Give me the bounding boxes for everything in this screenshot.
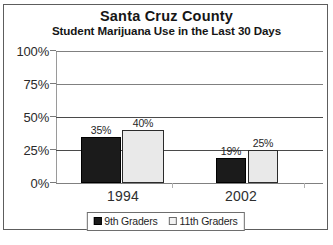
x-tick-stub-1994 bbox=[172, 183, 173, 188]
y-tick-label-100: 100% bbox=[17, 44, 49, 59]
bar-2002-11th-graders[interactable]: 25% bbox=[248, 150, 278, 183]
bar-2002-9th-graders[interactable]: 19% bbox=[216, 158, 246, 183]
chart-subtitle: Student Marijuana Use in the Last 30 Day… bbox=[4, 24, 329, 38]
bar-label-2002-11th-graders: 25% bbox=[253, 137, 273, 149]
y-tick-label-50: 50% bbox=[24, 110, 49, 125]
x-tick-stub-2002 bbox=[304, 183, 305, 188]
bar-label-2002-9th-graders: 19% bbox=[221, 145, 241, 157]
y-tick-label-0: 0% bbox=[31, 176, 49, 191]
bar-1994-9th-graders[interactable]: 35% bbox=[81, 137, 121, 183]
gridline-75 bbox=[56, 84, 323, 85]
legend-entry-11th-graders[interactable]: 11th Graders bbox=[169, 215, 238, 227]
chart-frame: Santa Cruz County Student Marijuana Use … bbox=[3, 4, 328, 230]
legend-entry-9th-graders[interactable]: 9th Graders bbox=[93, 215, 157, 227]
title-block: Santa Cruz County Student Marijuana Use … bbox=[4, 8, 329, 38]
legend-label-11th-graders: 11th Graders bbox=[180, 215, 238, 227]
gridline-50 bbox=[56, 117, 323, 118]
chart-legend: 9th Graders 11th Graders bbox=[86, 212, 244, 231]
y-tick-stub-100 bbox=[50, 50, 56, 51]
dark-square-swatch-icon bbox=[93, 217, 101, 225]
y-tick-label-75: 75% bbox=[24, 77, 49, 92]
bar-label-1994-11th-graders: 40% bbox=[133, 117, 153, 129]
bar-label-1994-9th-graders: 35% bbox=[91, 124, 111, 136]
bar-1994-11th-graders[interactable]: 40% bbox=[122, 130, 164, 183]
gridline-100 bbox=[56, 51, 323, 52]
y-tick-label-25: 25% bbox=[24, 143, 49, 158]
gridline-0 bbox=[56, 183, 323, 184]
legend-label-9th-graders: 9th Graders bbox=[104, 215, 157, 227]
plot-area: 100% 75% 50% 25% 0% 35% 40% 19% 25% 1994… bbox=[56, 51, 323, 183]
y-tick-stub-25 bbox=[50, 149, 56, 150]
x-tick-label-2002: 2002 bbox=[225, 188, 257, 204]
y-tick-stub-0 bbox=[50, 182, 56, 183]
light-square-swatch-icon bbox=[169, 217, 177, 225]
chart-title: Santa Cruz County bbox=[4, 8, 329, 24]
y-tick-stub-75 bbox=[50, 83, 56, 84]
y-tick-stub-50 bbox=[50, 116, 56, 117]
x-tick-label-1994: 1994 bbox=[107, 188, 139, 204]
